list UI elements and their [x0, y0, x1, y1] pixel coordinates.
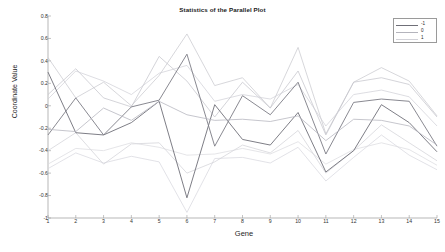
plot-area	[0, 0, 445, 252]
band-series-lines	[48, 34, 437, 212]
legend-label: -1	[421, 21, 425, 26]
legend-swatch	[396, 32, 418, 33]
axis-tick-marks	[48, 16, 437, 218]
legend-label: 0	[421, 28, 424, 33]
series-line	[48, 135, 437, 212]
legend-label: 1	[421, 35, 424, 40]
series-line	[48, 101, 437, 145]
figure-canvas: Statistics of the Parallel Plot Coordina…	[0, 0, 445, 252]
legend-item[interactable]: -1	[396, 22, 436, 29]
legend-swatch	[396, 39, 418, 40]
axis-lines	[48, 16, 437, 218]
legend[interactable]: -101	[393, 18, 437, 43]
legend-swatch	[396, 25, 418, 26]
mean-series-lines	[48, 54, 437, 198]
legend-item[interactable]: 1	[396, 36, 436, 43]
series-line	[48, 72, 437, 198]
legend-item[interactable]: 0	[396, 29, 436, 36]
